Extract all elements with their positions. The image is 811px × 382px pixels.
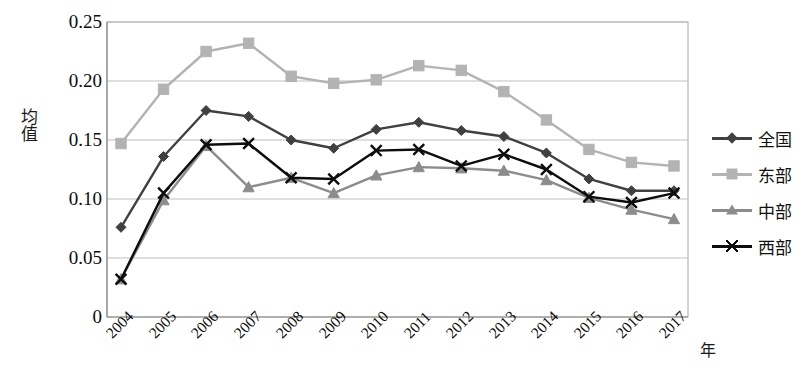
data-point-marker: [541, 115, 551, 125]
legend-marker-diamond-icon: [712, 130, 752, 146]
data-point-marker: [286, 135, 296, 145]
series-line: [121, 144, 674, 280]
data-point-marker: [456, 126, 466, 136]
legend-item-2[interactable]: 中部: [712, 192, 808, 228]
plot-border: [107, 22, 688, 317]
data-point-marker: [371, 75, 381, 85]
series-3: [116, 138, 680, 285]
legend-marker-square-icon: [712, 166, 752, 182]
x-axis-title: 年: [700, 337, 716, 361]
data-point-marker: [244, 111, 254, 121]
chart-legend: 全国 东部 中部 西部: [712, 120, 808, 264]
data-point-marker: [158, 84, 168, 94]
data-point-marker: [286, 71, 296, 81]
data-point-marker: [499, 86, 509, 96]
line-chart: 均值 0.250.200.150.100.050 200420052006200…: [0, 0, 811, 382]
data-point-marker: [626, 157, 636, 167]
legend-marker-triangle-icon: [712, 202, 752, 218]
data-point-marker: [414, 117, 424, 127]
legend-label-0: 全国: [758, 126, 792, 151]
data-point-marker: [328, 78, 338, 88]
legend-label-2: 中部: [758, 198, 792, 223]
data-point-marker: [541, 164, 552, 175]
legend-label-3: 西部: [758, 234, 792, 259]
data-point-marker: [626, 186, 636, 196]
data-point-marker: [414, 60, 424, 70]
series-line: [121, 111, 674, 228]
legend-item-1[interactable]: 东部: [712, 156, 808, 192]
legend-label-1: 东部: [758, 162, 792, 187]
data-point-marker: [243, 38, 253, 48]
legend-item-0[interactable]: 全国: [712, 120, 808, 156]
legend-marker-cross-icon: [712, 238, 752, 254]
series-line: [121, 146, 674, 279]
series-0: [116, 106, 679, 233]
legend-item-3[interactable]: 西部: [712, 228, 808, 264]
data-point-marker: [584, 144, 594, 154]
data-point-marker: [201, 46, 211, 56]
data-point-marker: [669, 161, 679, 171]
data-point-marker: [116, 138, 126, 148]
data-point-marker: [456, 65, 466, 75]
series-2: [115, 140, 679, 284]
data-point-marker: [371, 124, 381, 134]
data-point-marker: [329, 143, 339, 153]
